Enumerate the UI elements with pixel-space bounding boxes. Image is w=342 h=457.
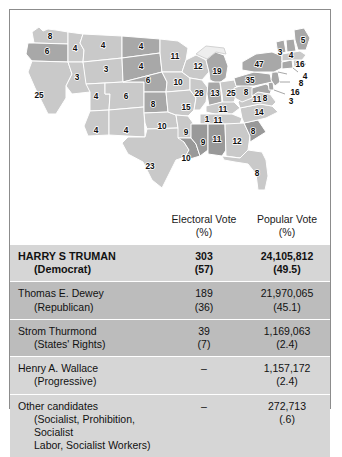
candidate-cell: Henry A. Wallace (Progressive) — [10, 362, 160, 388]
candidate-party: (Socialist, Prohibition, Socialist — [18, 413, 160, 439]
svg-text:4: 4 — [101, 40, 106, 50]
electoral-votes: – — [201, 362, 207, 374]
table-row: Henry A. Wallace (Progressive) – 1,157,1… — [10, 356, 330, 393]
candidate-name: Strom Thurmond — [18, 325, 97, 337]
electoral-votes: 189 — [195, 287, 213, 299]
candidate-name: Thomas E. Dewey — [18, 287, 104, 299]
svg-text:4: 4 — [139, 41, 144, 51]
header-electoral-label: Electoral Vote — [172, 213, 237, 225]
popular-votes: 24,105,812 — [261, 250, 314, 262]
svg-text:4: 4 — [73, 43, 78, 53]
candidate-name: Henry A. Wallace — [18, 362, 98, 374]
electoral-cell: – — [160, 362, 248, 375]
svg-text:15: 15 — [181, 102, 191, 112]
svg-text:5: 5 — [301, 35, 306, 45]
svg-text:3: 3 — [278, 47, 283, 57]
svg-text:47: 47 — [254, 59, 264, 69]
svg-text:11: 11 — [213, 134, 222, 144]
electoral-pct: (7) — [160, 338, 248, 351]
header-electoral-pct: (%) — [160, 226, 248, 239]
table-header-row: Electoral Vote (%) Popular Vote (%) — [10, 207, 330, 244]
popular-pct: (2.4) — [248, 375, 326, 388]
svg-text:6: 6 — [146, 75, 151, 85]
svg-text:4: 4 — [289, 50, 294, 60]
table-row: Other candidates (Socialist, Prohibition… — [10, 394, 330, 457]
popular-votes: 1,157,172 — [264, 362, 311, 374]
svg-text:12: 12 — [193, 61, 203, 71]
header-candidate — [10, 213, 160, 239]
state-CA — [28, 61, 72, 114]
candidate-party: (Progressive) — [18, 375, 160, 388]
svg-text:4: 4 — [139, 61, 144, 71]
popular-cell: 1,157,172 (2.4) — [248, 362, 330, 388]
svg-text:25: 25 — [226, 88, 236, 98]
header-electoral: Electoral Vote (%) — [160, 213, 248, 239]
svg-text:23: 23 — [145, 161, 155, 171]
popular-cell: 21,970,065 (45.1) — [248, 287, 330, 313]
electoral-cell: 189 (36) — [160, 287, 248, 313]
electoral-pct: (57) — [160, 263, 248, 276]
svg-text:8: 8 — [255, 168, 260, 178]
svg-text:8: 8 — [48, 31, 53, 41]
table-row: Strom Thurmond (States' Rights) 39 (7) 1… — [10, 319, 330, 356]
svg-text:35: 35 — [245, 75, 255, 85]
svg-text:25: 25 — [34, 90, 44, 100]
svg-text:11: 11 — [171, 51, 180, 61]
candidate-name: Other candidates — [18, 400, 98, 412]
popular-pct: (49.5) — [248, 263, 326, 276]
candidate-party-cont: Labor, Socialist Workers) — [18, 439, 160, 452]
svg-text:3: 3 — [289, 96, 294, 106]
svg-text:4: 4 — [94, 91, 99, 101]
svg-text:19: 19 — [212, 66, 222, 76]
header-popular: Popular Vote (%) — [248, 213, 330, 239]
svg-text:11: 11 — [253, 94, 262, 104]
candidate-cell: Strom Thurmond (States' Rights) — [10, 325, 160, 351]
popular-votes: 272,713 — [268, 400, 306, 412]
popular-cell: 24,105,812 (49.5) — [248, 250, 330, 276]
popular-cell: 1,169,063 (2.4) — [248, 325, 330, 351]
svg-text:28: 28 — [194, 88, 204, 98]
popular-pct: (2.4) — [248, 338, 326, 351]
figure-frame: 8 6 25 4 3 4 3 4 4 6 4 4 4 6 8 10 23 — [9, 9, 331, 409]
svg-text:9: 9 — [184, 127, 189, 137]
candidate-cell: Thomas E. Dewey (Republican) — [10, 287, 160, 313]
table-row: HARRY S TRUMAN (Democrat) 303 (57) 24,10… — [10, 244, 330, 281]
svg-text:8: 8 — [263, 93, 268, 103]
svg-text:1: 1 — [205, 114, 210, 124]
header-popular-pct: (%) — [248, 226, 326, 239]
svg-text:3: 3 — [75, 72, 80, 82]
electoral-cell: – — [160, 400, 248, 413]
electoral-cell: 303 (57) — [160, 250, 248, 276]
electoral-pct: (36) — [160, 301, 248, 314]
svg-text:11: 11 — [214, 115, 223, 125]
candidate-party: (Democrat) — [18, 263, 160, 276]
header-popular-label: Popular Vote — [257, 213, 317, 225]
electoral-map: 8 6 25 4 3 4 3 4 4 6 4 4 4 6 8 10 23 — [10, 10, 330, 207]
popular-cell: 272,713 (.6) — [248, 400, 330, 426]
svg-text:10: 10 — [157, 121, 167, 131]
svg-text:3: 3 — [104, 64, 109, 74]
table-row: Thomas E. Dewey (Republican) 189 (36) 21… — [10, 281, 330, 318]
svg-text:10: 10 — [173, 77, 183, 87]
popular-pct: (45.1) — [248, 301, 326, 314]
results-table: Electoral Vote (%) Popular Vote (%) HARR… — [10, 207, 330, 457]
svg-text:14: 14 — [254, 107, 264, 117]
electoral-votes: 303 — [195, 250, 213, 262]
svg-text:4: 4 — [303, 71, 308, 81]
svg-text:9: 9 — [201, 137, 206, 147]
svg-text:16: 16 — [290, 87, 300, 97]
svg-text:10: 10 — [181, 153, 191, 163]
candidate-name: HARRY S TRUMAN — [18, 250, 116, 262]
svg-text:4: 4 — [94, 125, 99, 135]
candidate-party: (States' Rights) — [18, 338, 160, 351]
svg-text:16: 16 — [295, 59, 305, 69]
electoral-votes: – — [201, 400, 207, 412]
svg-text:4: 4 — [124, 125, 129, 135]
electoral-cell: 39 (7) — [160, 325, 248, 351]
us-map-svg: 8 6 25 4 3 4 3 4 4 6 4 4 4 6 8 10 23 — [10, 10, 330, 207]
svg-text:6: 6 — [124, 91, 129, 101]
svg-text:8: 8 — [151, 99, 156, 109]
svg-text:8: 8 — [251, 126, 256, 136]
popular-pct: (.6) — [248, 413, 326, 426]
